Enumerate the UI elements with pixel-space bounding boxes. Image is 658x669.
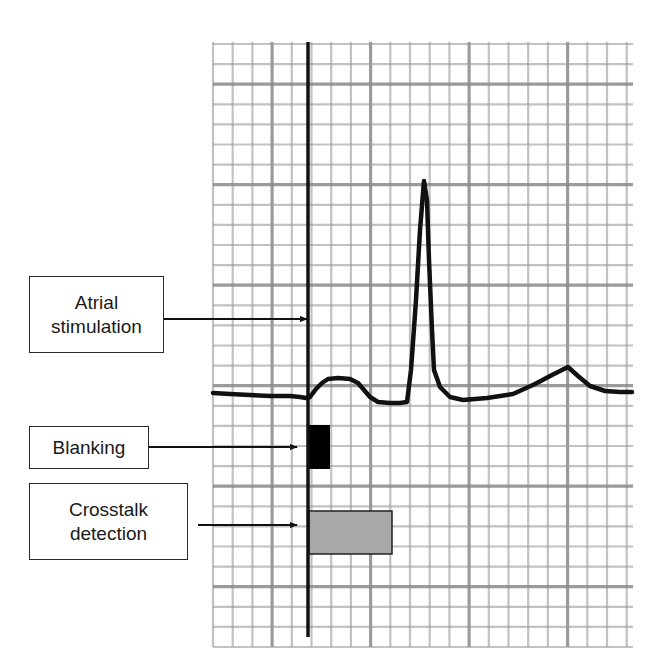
ecg-diagram: Atrial stimulation Blanking Crosstalk de… [0, 0, 658, 669]
blanking-label-text: Blanking [53, 436, 126, 460]
crosstalk-detection-label-line-2: detection [69, 522, 148, 546]
atrial-stimulation-label-line-2: stimulation [51, 315, 142, 339]
ecg-grid-paper [213, 42, 633, 647]
blanking-label: Blanking [29, 426, 149, 469]
crosstalk-detection-label: Crosstalk detection [29, 483, 188, 560]
timing-blocks [307, 425, 392, 554]
blanking-period-block [307, 425, 330, 469]
crosstalk-detection-window-block [309, 511, 392, 554]
crosstalk-detection-label-line-1: Crosstalk [69, 498, 148, 522]
atrial-stimulation-label-line-1: Atrial [51, 291, 142, 315]
atrial-stimulation-label: Atrial stimulation [29, 276, 164, 353]
